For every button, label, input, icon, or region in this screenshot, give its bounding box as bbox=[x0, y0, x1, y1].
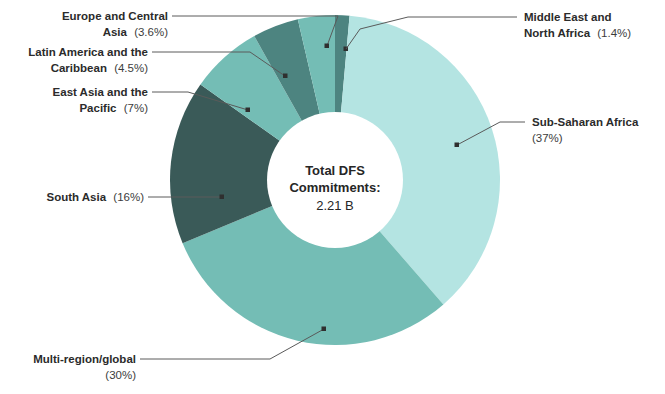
donut-chart-svg: Europe and Central Asia (3.6%) Latin Ame… bbox=[0, 0, 665, 394]
leader-dot-east-asia-and-the-pacific bbox=[246, 108, 251, 113]
center-title-line2: Commitments: bbox=[289, 180, 380, 195]
slice-label-multi-region-global-line2: (30%) bbox=[105, 369, 136, 381]
leader-dot-multi-region-global bbox=[322, 327, 327, 332]
slice-label-sub-saharan-africa: Sub-Saharan Africa bbox=[532, 116, 639, 128]
leader-dot-south-asia bbox=[220, 195, 225, 200]
leader-dot-latin-america-and-the-caribbean bbox=[283, 74, 288, 79]
slice-label-latin-america-and-the-caribbean: Latin America and the bbox=[28, 46, 148, 58]
slice-label-sub-saharan-africa-line2: (37%) bbox=[532, 132, 563, 144]
slice-label-multi-region-global: Multi-region/global bbox=[33, 353, 136, 365]
slice-label-latin-america-and-the-caribbean-line2: Caribbean (4.5%) bbox=[51, 62, 148, 74]
center-title-line1: Total DFS bbox=[305, 163, 365, 178]
slice-label-middle-east-and-north-africa: Middle East and bbox=[524, 11, 612, 23]
slice-label-europe-and-central-asia-line2: Asia (3.6%) bbox=[103, 26, 169, 38]
donut-chart: Europe and Central Asia (3.6%) Latin Ame… bbox=[0, 0, 665, 394]
slice-label-east-asia-and-the-pacific-line2: Pacific (7%) bbox=[79, 102, 148, 114]
slice-label-south-asia: South Asia (16%) bbox=[46, 191, 144, 203]
slice-label-east-asia-and-the-pacific: East Asia and the bbox=[53, 86, 148, 98]
leader-dot-sub-saharan-africa bbox=[455, 143, 460, 148]
slice-label-europe-and-central-asia: Europe and Central bbox=[62, 10, 168, 22]
leader-dot-europe-and-central-asia bbox=[325, 44, 330, 49]
slice-label-middle-east-and-north-africa-line2: North Africa (1.4%) bbox=[524, 27, 631, 39]
center-total-value: 2.21 B bbox=[316, 198, 354, 213]
